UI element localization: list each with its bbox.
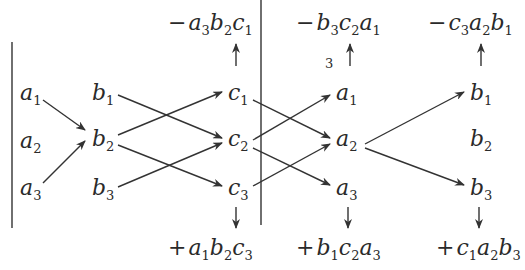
- arrow-c2-a1: [253, 95, 330, 140]
- arrow-a2-b3: [365, 148, 464, 185]
- node-b1: b1: [92, 82, 114, 104]
- arrow-c1-a2: [253, 100, 330, 138]
- node-a2: a2: [20, 130, 41, 152]
- term-minus-b3c2a1: −b3c2a1: [296, 12, 381, 34]
- node-c2: c2: [228, 128, 249, 150]
- node-c1: c1: [228, 82, 249, 104]
- term-plus-b1c2a3: +b1c2a3: [296, 237, 381, 259]
- arrow-a2-b1: [365, 92, 464, 144]
- arrow-b2-c1: [118, 92, 222, 135]
- node-b1-repeat: b1: [470, 82, 492, 104]
- node-a1-repeat: a1: [336, 82, 357, 104]
- term-plus-c1a2b3: +c1a2b3: [436, 237, 521, 259]
- node-a1: a1: [20, 82, 41, 104]
- node-c3: c3: [228, 177, 249, 199]
- arrow-a1-b2: [43, 100, 85, 130]
- node-b2-repeat: b2: [470, 128, 492, 150]
- arrow-b1-c2: [118, 95, 222, 138]
- diagram-lines: [0, 0, 525, 270]
- node-a3-repeat: a3: [336, 177, 357, 199]
- arrow-a3-b2: [43, 141, 85, 183]
- stray-mark: 3: [325, 56, 333, 71]
- node-b3-repeat: b3: [470, 177, 492, 199]
- term-minus-a3b2c1: −a3b2c1: [168, 12, 253, 34]
- node-b3: b3: [92, 177, 114, 199]
- node-b2: b2: [92, 128, 114, 150]
- node-a3: a3: [20, 177, 41, 199]
- term-plus-a1b2c3: +a1b2c3: [168, 237, 253, 259]
- node-a2-repeat: a2: [336, 128, 357, 150]
- term-minus-c3a2b1: −c3a2b1: [428, 12, 513, 34]
